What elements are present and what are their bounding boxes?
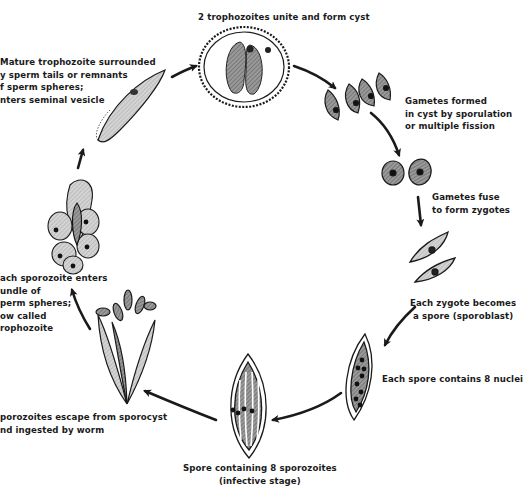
label-sporoblast-line-2: a spore (sporoblast): [410, 310, 516, 323]
label-enter-bundle-line-4: ow called: [0, 310, 107, 323]
label-zygotes-line-2: to form zygotes: [432, 204, 510, 217]
zygotes-icon: [410, 232, 455, 282]
label-sporoblast-line-1: Each zygote becomes: [410, 297, 516, 310]
label-mature-line-4: nters seminal vesicle: [0, 94, 156, 107]
fusing-gametes-icon: [382, 157, 434, 188]
sperm-sphere-bundle-icon: [48, 180, 99, 274]
arrow-gametes-to-fusing: [371, 113, 399, 155]
label-enter-bundle-line-2: undle of: [0, 285, 107, 298]
label-escape-line-2: nd ingested by worm: [0, 424, 167, 437]
arrow-fuse-to-zygotes: [418, 197, 421, 225]
label-gametes-line-1: Gametes formed: [405, 95, 512, 108]
label-enter-bundle-line-3: perm spheres;: [0, 297, 107, 310]
spore-sporozoites-icon: [231, 354, 267, 458]
label-sporoblast: Each zygote becomes a spore (sporoblast): [410, 297, 516, 322]
label-gametes: Gametes formed in cyst by sporulation or…: [405, 95, 512, 133]
label-mature-line-1: Mature trophozoite surrounded: [0, 56, 156, 69]
label-enter-bundle-line-5: rophozoite: [0, 322, 107, 335]
label-spore-sporozoites-line-1: Spore containing 8 sporozoites: [183, 462, 337, 475]
label-spore-nuclei: Each spore contains 8 nuclei: [382, 373, 523, 386]
label-zygotes: Gametes fuse to form zygotes: [432, 191, 510, 216]
label-mature: Mature trophozoite surrounded y sperm ta…: [0, 56, 156, 106]
label-escape: porozoites escape from sporocyst nd inge…: [0, 411, 167, 436]
gametes-icon: [325, 73, 390, 120]
label-spore-sporozoites-line-2: (infective stage): [183, 475, 337, 488]
cyst-icon: [199, 27, 289, 107]
arrow-mature-to-cyst: [172, 66, 196, 77]
label-enter-bundle: ach sporozoite enters undle of perm sphe…: [0, 272, 107, 335]
arrow-bundle-to-mature: [78, 150, 83, 168]
label-mature-line-3: f sperm spheres;: [0, 81, 156, 94]
label-mature-line-2: y sperm tails or remnants: [0, 69, 156, 82]
label-escape-line-1: porozoites escape from sporocyst: [0, 411, 167, 424]
arrow-cyst-to-gametes: [294, 66, 335, 88]
label-gametes-line-3: or multiple fission: [405, 120, 512, 133]
label-spore-sporozoites: Spore containing 8 sporozoites (infectiv…: [183, 462, 337, 487]
spore-nuclei-icon: [346, 334, 372, 420]
label-enter-bundle-line-1: ach sporozoite enters: [0, 272, 107, 285]
label-zygotes-line-1: Gametes fuse: [432, 191, 510, 204]
label-cyst: 2 trophozoites unite and form cyst: [198, 11, 370, 24]
arrow-spore-to-sporozoites: [273, 393, 341, 420]
label-gametes-line-2: in cyst by sporulation: [405, 108, 512, 121]
